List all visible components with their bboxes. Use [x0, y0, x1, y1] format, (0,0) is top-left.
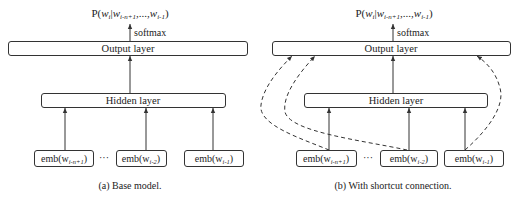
- output-layer-label: Output layer: [365, 43, 418, 54]
- caption: (b) With shortcut connection.: [334, 180, 451, 192]
- ellipsis: ···: [363, 152, 373, 163]
- hidden-layer-label: Hidden layer: [106, 95, 161, 106]
- panel-shortcut-connection: P(wi|wi-n+1,...,wi-1) softmax Output lay…: [261, 7, 511, 192]
- probability-label: P(wi|wi-n+1,...,wi-1): [355, 7, 433, 21]
- softmax-label: softmax: [134, 27, 166, 38]
- caption: (a) Base model.: [98, 180, 161, 192]
- hidden-layer-label: Hidden layer: [369, 95, 424, 106]
- softmax-label: softmax: [397, 27, 429, 38]
- panel-base-model: P(wi|wi-n+1,...,wi-1) softmax Output lay…: [9, 7, 248, 192]
- ellipsis: ···: [99, 152, 109, 163]
- probability-label: P(wi|wi-n+1,...,wi-1): [91, 7, 169, 21]
- diagram-canvas: P(wi|wi-n+1,...,wi-1) softmax Output lay…: [0, 0, 519, 199]
- output-layer-label: Output layer: [102, 43, 155, 54]
